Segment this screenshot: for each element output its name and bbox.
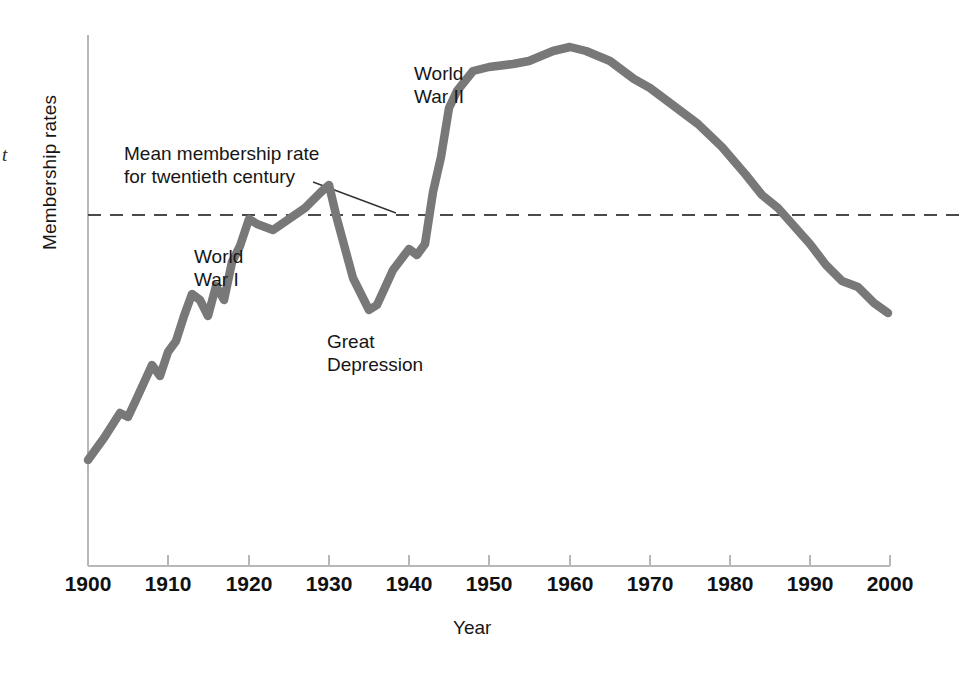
x-tick-label: 1910	[145, 572, 192, 596]
x-tick-label: 1960	[547, 572, 594, 596]
annotation-world-war-1: World War I	[194, 245, 243, 291]
x-tick-label: 1900	[65, 572, 112, 596]
y-axis-title: Membership rates	[38, 95, 61, 250]
membership-rates-chart-figure: t Membership rates Year 1900 1910 1920 1…	[0, 0, 974, 676]
x-axis-ticks	[88, 555, 890, 566]
x-tick-label: 2000	[867, 572, 914, 596]
x-tick-label: 1920	[226, 572, 273, 596]
x-tick-label: 1970	[627, 572, 674, 596]
x-tick-label: 1980	[707, 572, 754, 596]
x-tick-label: 1990	[787, 572, 834, 596]
x-tick-label: 1940	[386, 572, 433, 596]
x-tick-label: 1950	[466, 572, 513, 596]
annotation-world-war-2: World War II	[414, 62, 464, 108]
stray-italic-t-glyph: t	[2, 143, 7, 166]
annotation-mean-membership-rate: Mean membership rate for twentieth centu…	[124, 142, 319, 188]
x-tick-label: 1930	[306, 572, 353, 596]
annotation-great-depression: Great Depression	[327, 330, 423, 376]
x-axis-title: Year	[453, 616, 491, 639]
